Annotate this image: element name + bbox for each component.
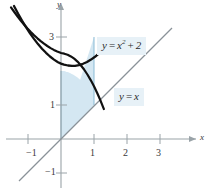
y-tick-label-1: 1	[50, 100, 55, 110]
line-equation-label: y=x	[114, 88, 144, 106]
x-axis-label: x	[200, 133, 204, 142]
graph-figure: −1 1 2 3 3 1 −1 x y y=x2+2 y=x	[0, 0, 212, 194]
parabola-label-constant: 2	[136, 39, 142, 51]
parabola-label-plus: +	[126, 39, 136, 51]
parabola-label-exponent: 2	[122, 38, 126, 46]
line-label-equals: =	[124, 90, 134, 102]
y-axis-label: y	[57, 0, 61, 9]
x-tick-label-1: 1	[90, 148, 95, 158]
y-tick-label-3: 3	[49, 32, 54, 42]
parabola-curve-main	[14, 6, 111, 66]
region-polygon-final	[61, 37, 94, 139]
parabola-label-equals: =	[107, 39, 117, 51]
parabola-equation-label: y=x2+2	[97, 37, 146, 55]
x-tick-label-2: 2	[123, 148, 128, 158]
x-axis-arrowhead	[189, 136, 196, 142]
line-curve-y-equals-x	[19, 28, 172, 181]
x-tick-label-3: 3	[156, 148, 161, 158]
plot-canvas	[0, 0, 212, 194]
x-tick-label--1: −1	[26, 148, 37, 158]
line-label-x: x	[134, 90, 139, 102]
y-tick-label--1: −1	[45, 167, 56, 177]
